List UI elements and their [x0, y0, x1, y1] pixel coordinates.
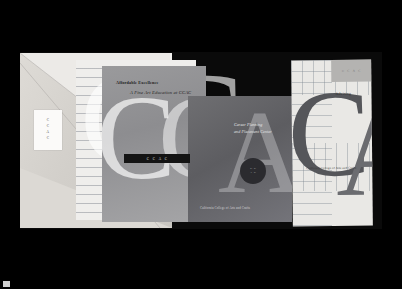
logo-letter: A: [47, 131, 50, 134]
logo-letter: A: [159, 157, 162, 161]
logo-letter: C: [347, 69, 349, 73]
card-footer: California College of Arts and Crafts: [200, 206, 250, 210]
grid-poster: C A C C A C Advising California College …: [291, 60, 373, 227]
logo-letter: C: [47, 125, 50, 128]
brochure-logo-bar: C C A C: [124, 154, 190, 163]
brochure-subheading: A Fine Art Education at CCAC: [130, 90, 191, 95]
logo-letter: C: [342, 69, 344, 73]
card-letterform: A: [218, 106, 292, 200]
logo-letter: C: [165, 157, 167, 161]
logo-letter: C: [47, 119, 50, 122]
folder-label-card: C C A C: [34, 110, 62, 150]
card-title-line2: and Placement Center: [234, 129, 272, 134]
logo-letter: C: [147, 157, 149, 161]
poster-letterform-a: A: [336, 105, 373, 201]
logo-letter: C: [153, 157, 155, 161]
seal-letter: C: [254, 172, 256, 175]
poster-logo-band: C C A C: [331, 60, 371, 82]
ccac-seal: C C A C: [240, 158, 266, 184]
logo-letter: C: [47, 137, 50, 140]
brochure-heading: Affordable Excellence: [116, 80, 159, 85]
logo-letter: C: [358, 69, 360, 73]
card-title-line1: Career Planning: [234, 122, 262, 127]
collateral-photograph: C C A C C C C C Affordable Excellence A …: [20, 52, 382, 229]
vertical-ccac-logo: C C A C: [47, 119, 50, 140]
seal-letter: A: [250, 172, 252, 175]
corner-registration-mark: [3, 281, 10, 287]
poster-footer: California College of Arts and Crafts: [306, 166, 356, 171]
logo-letter: A: [353, 69, 356, 73]
scene-stage: C C A C C C C C Affordable Excellence A …: [0, 0, 402, 289]
poster-word: Advising: [335, 92, 351, 96]
seal-row-bottom: A C: [250, 172, 256, 175]
card-career-planning: A Career Planning and Placement Center C…: [188, 96, 292, 222]
